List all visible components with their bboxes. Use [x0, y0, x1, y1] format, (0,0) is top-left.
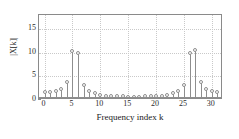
stem-marker	[59, 87, 63, 91]
x-tick-label: 20	[151, 100, 159, 108]
baseline	[39, 97, 221, 98]
gridline-vertical	[45, 15, 46, 98]
x-tick-label: 10	[95, 100, 103, 108]
stem-marker	[182, 83, 186, 87]
stem-marker	[176, 89, 180, 93]
stem-marker	[54, 89, 58, 93]
stem-marker	[199, 80, 203, 84]
y-tick-label: 15	[28, 24, 36, 32]
y-tick-label: 0	[32, 95, 36, 103]
gridline-vertical	[128, 15, 129, 98]
gridline-vertical	[156, 15, 157, 98]
y-tick-mark	[38, 99, 41, 100]
y-tick-label: 10	[28, 48, 36, 56]
stem-marker	[76, 51, 80, 55]
stem-marker	[48, 90, 52, 94]
gridline-vertical	[100, 15, 101, 98]
stem-marker	[204, 87, 208, 91]
y-axis-label: |X[k]|	[9, 17, 18, 77]
gridline-horizontal	[39, 76, 221, 77]
x-tick-label: 30	[207, 100, 215, 108]
y-tick-label: 5	[32, 71, 36, 79]
x-tick-label: 0	[42, 100, 46, 108]
stem-marker	[43, 90, 47, 94]
stem-marker	[87, 89, 91, 93]
stem-marker	[188, 51, 192, 55]
gridline-horizontal	[39, 29, 221, 30]
stem-marker	[171, 91, 175, 95]
stem-marker	[65, 80, 69, 84]
stem-line	[195, 50, 196, 99]
stem-marker	[82, 83, 86, 87]
stem-marker	[93, 91, 97, 95]
x-tick-label: 5	[69, 100, 73, 108]
stem-marker	[210, 89, 214, 93]
stem-marker	[215, 90, 219, 94]
plot-area	[38, 14, 222, 99]
gridline-horizontal	[39, 53, 221, 54]
figure-canvas: |X[k]| 051015 051015202530 Frequency ind…	[0, 0, 239, 139]
x-tick-label: 15	[123, 100, 131, 108]
stem-line	[190, 53, 191, 99]
x-axis-label: Frequency index k	[38, 112, 222, 122]
stem-line	[78, 53, 79, 99]
gridline-vertical	[212, 15, 213, 98]
stem-line	[72, 51, 73, 99]
x-tick-label: 25	[179, 100, 187, 108]
